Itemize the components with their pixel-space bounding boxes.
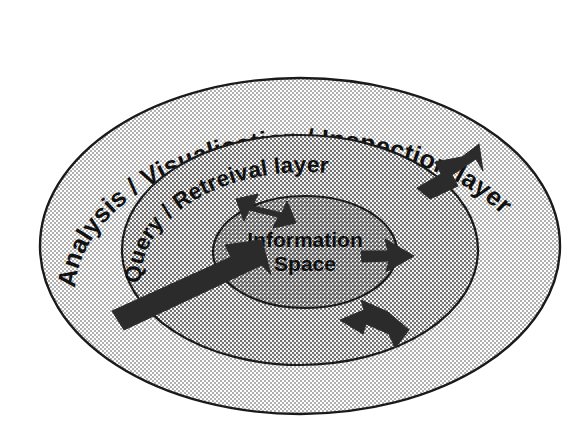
concentric-layers-diagram: Analysis / Visualisation / Inspection la…: [0, 0, 583, 434]
diagram-canvas: Analysis / Visualisation / Inspection la…: [0, 0, 583, 434]
information-space-label-line1: Information: [247, 228, 363, 251]
information-space-label-line2: Space: [274, 252, 336, 275]
